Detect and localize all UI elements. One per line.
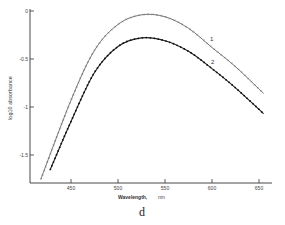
dot-marker: [161, 39, 163, 41]
dot-marker: [228, 81, 230, 83]
dot-marker: [176, 44, 178, 46]
cross-marker: [247, 78, 249, 80]
series-1-line: [41, 14, 264, 179]
dot-marker: [73, 113, 75, 115]
dot-marker: [119, 44, 121, 46]
dot-marker: [183, 48, 185, 50]
series-2-line: [50, 38, 263, 170]
x-ticks: 450500550600650: [67, 179, 264, 191]
dot-marker: [59, 146, 61, 148]
cross-marker: [244, 75, 246, 77]
dot-marker: [219, 74, 221, 76]
dot-marker: [134, 38, 136, 40]
dot-marker: [53, 161, 55, 163]
x-tick-label: 600: [208, 185, 217, 191]
dot-marker: [113, 49, 115, 51]
dot-marker: [200, 59, 202, 61]
dot-marker: [81, 95, 83, 97]
y-axis-title: log10 absorbance: [7, 76, 13, 120]
dot-marker: [206, 64, 208, 66]
dot-marker: [49, 169, 51, 171]
dot-marker: [145, 37, 147, 39]
dot-marker: [246, 97, 248, 99]
dot-marker: [203, 62, 205, 64]
series-label-2: 2: [211, 59, 215, 65]
dot-marker: [51, 165, 53, 167]
dot-marker: [88, 81, 90, 83]
cross-marker: [234, 65, 236, 67]
dot-marker: [169, 41, 171, 43]
dot-marker: [157, 38, 159, 40]
dot-marker: [65, 132, 67, 134]
y-tick-label: -0.5: [19, 56, 28, 62]
dot-marker: [187, 50, 189, 52]
dot-marker: [122, 42, 124, 44]
dot-marker: [210, 66, 212, 68]
dot-marker: [77, 106, 79, 108]
cross-marker: [260, 90, 262, 92]
dot-marker: [68, 124, 70, 126]
absorbance-chart: 0-0.5-1-1.5 450500550600650 log10 absorb…: [0, 0, 285, 225]
dot-marker: [173, 43, 175, 45]
x-tick-label: 650: [255, 185, 264, 191]
dot-marker: [126, 41, 128, 43]
dot-marker: [90, 77, 92, 79]
axes: [30, 9, 272, 183]
x-tick-label: 450: [67, 185, 76, 191]
cross-marker: [206, 43, 208, 45]
dot-marker: [83, 92, 85, 94]
dot-marker: [222, 76, 224, 78]
dot-marker: [130, 39, 132, 41]
dot-marker: [255, 106, 257, 108]
dot-marker: [197, 57, 199, 59]
dot-marker: [110, 52, 112, 54]
dot-marker: [153, 37, 155, 39]
series-label-1: 1: [210, 36, 214, 42]
x-axis-title: Wavelength,: [118, 194, 147, 200]
dot-marker: [94, 70, 96, 72]
dot-marker: [107, 55, 109, 57]
dot-marker: [240, 92, 242, 94]
dot-marker: [101, 61, 103, 63]
x-tick-label: 550: [161, 185, 170, 191]
dot-marker: [54, 157, 56, 159]
cross-marker: [251, 81, 253, 83]
dot-marker: [67, 128, 69, 130]
dot-marker: [57, 150, 59, 152]
cross-marker: [210, 45, 212, 47]
dot-marker: [99, 64, 101, 66]
dot-marker: [60, 143, 62, 145]
dot-marker: [243, 95, 245, 97]
y-tick-label: 0: [25, 8, 28, 14]
x-axis-unit: nm: [158, 194, 165, 200]
dot-marker: [75, 110, 77, 112]
cross-marker: [203, 40, 205, 42]
dot-marker: [62, 139, 64, 141]
dot-marker: [165, 40, 167, 42]
dot-marker: [64, 135, 66, 137]
dot-marker: [137, 37, 139, 39]
dot-marker: [92, 74, 94, 76]
dot-marker: [149, 37, 151, 39]
dot-marker: [80, 99, 82, 101]
dot-marker: [70, 121, 72, 123]
dot-marker: [78, 102, 80, 104]
dot-marker: [141, 37, 143, 39]
dot-marker: [194, 54, 196, 56]
cross-marker: [254, 84, 256, 86]
dot-marker: [213, 69, 215, 71]
x-tick-label: 500: [114, 185, 123, 191]
dot-marker: [72, 117, 74, 119]
dot-marker: [104, 58, 106, 60]
dot-marker: [261, 111, 263, 113]
dot-marker: [252, 103, 254, 105]
dot-marker: [225, 79, 227, 81]
dot-marker: [85, 88, 87, 90]
dot-marker: [56, 154, 58, 156]
y-tick-label: -1: [24, 104, 29, 110]
y-ticks: 0-0.5-1-1.5: [19, 8, 34, 158]
dot-marker: [234, 87, 236, 89]
dot-marker: [249, 100, 251, 102]
dot-marker: [216, 71, 218, 73]
dot-marker: [237, 89, 239, 91]
